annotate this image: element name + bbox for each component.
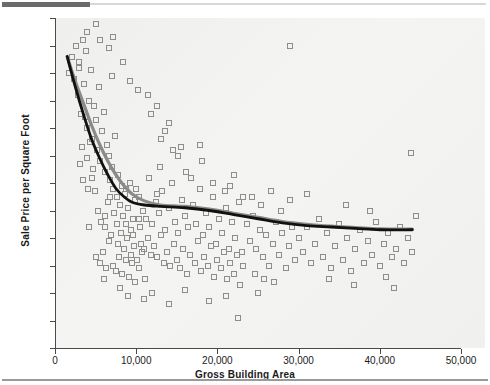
y-axis-title: Sale Price per Square Foot bbox=[20, 101, 31, 261]
smoothing-curve-dark-path bbox=[67, 57, 412, 230]
smoothing-curve-gray-path bbox=[67, 57, 412, 230]
scatter-chart-figure: 0$10$20$30$40$50$60$70$80$90$100$110$120… bbox=[0, 0, 490, 385]
trend-curves-layer bbox=[0, 0, 490, 385]
footer-rule bbox=[2, 379, 488, 381]
